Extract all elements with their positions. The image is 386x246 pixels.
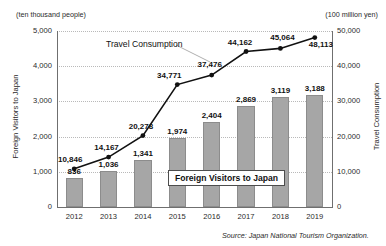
line-value-label: 44,162: [223, 38, 257, 47]
chart-container: (ten thousand people) (100 million yen) …: [0, 0, 386, 246]
line-value-label: 10,846: [53, 155, 87, 164]
bar: [272, 97, 289, 207]
bar-value-label: 1,036: [91, 160, 125, 169]
right-axis-tick-label: 50,000: [337, 26, 377, 35]
bar: [66, 178, 83, 207]
gridline: [57, 137, 332, 138]
line-marker: [244, 49, 249, 54]
line-marker: [175, 82, 180, 87]
left-axis-title: Foreign Visitors to Japan: [11, 57, 20, 177]
bar-value-label: 836: [57, 167, 91, 176]
bar: [100, 171, 117, 207]
right-axis-tick-label: 30,000: [337, 96, 377, 105]
bar-value-label: 1,974: [160, 127, 194, 136]
right-axis-title: Travel Consumption: [372, 57, 381, 177]
bar-value-label: 1,341: [126, 149, 160, 158]
bar: [203, 122, 220, 207]
line-value-label: 14,167: [89, 143, 123, 152]
line-value-label: 34,771: [152, 71, 186, 80]
x-axis-tick-label: 2012: [57, 212, 91, 221]
x-axis-tick-label: 2017: [229, 212, 263, 221]
x-axis-tick-label: 2015: [160, 212, 194, 221]
line-value-label: 45,064: [265, 33, 299, 42]
bar: [237, 106, 254, 207]
right-axis-tick-label: 20,000: [337, 132, 377, 141]
right-axis-tick-label: 40,000: [337, 61, 377, 70]
x-axis-tick-label: 2018: [263, 212, 297, 221]
line-marker: [278, 46, 283, 51]
left-axis-tick-label: 0: [18, 202, 52, 211]
legend-bar-series: Foreign Visitors to Japan: [168, 170, 285, 186]
bar-value-label: 2,404: [195, 111, 229, 120]
bar-value-label: 2,869: [229, 95, 263, 104]
left-axis-tick-label: 2,000: [18, 132, 52, 141]
line-series-annotation: Travel Consumption: [106, 39, 183, 49]
right-axis-line: [332, 31, 333, 208]
right-axis-tick-label: 10,000: [337, 167, 377, 176]
x-axis-tick-label: 2013: [91, 212, 125, 221]
line-value-label: 48,113: [304, 40, 338, 49]
x-axis-tick-label: 2014: [126, 212, 160, 221]
left-axis-tick-label: 3,000: [18, 96, 52, 105]
x-axis-line: [57, 207, 333, 208]
gridline: [57, 101, 332, 102]
bar-value-label: 3,119: [263, 86, 297, 95]
left-axis-tick-label: 5,000: [18, 26, 52, 35]
right-axis-unit-label: (100 million yen): [325, 10, 378, 19]
left-axis-unit-label: (ten thousand people): [16, 10, 86, 19]
bar: [134, 160, 151, 207]
source-note: Source: Japan National Tourism Organizat…: [222, 231, 369, 240]
x-axis-tick-label: 2016: [195, 212, 229, 221]
left-axis-tick-label: 1,000: [18, 167, 52, 176]
left-axis-tick-label: 4,000: [18, 61, 52, 70]
line-value-label: 20,278: [124, 122, 158, 131]
line-value-label: 37,476: [193, 60, 227, 69]
x-axis-tick-label: 2019: [298, 212, 332, 221]
bar: [306, 95, 323, 207]
line-marker: [209, 73, 214, 78]
gridline: [57, 31, 332, 32]
left-axis-line: [57, 31, 58, 208]
right-axis-tick-label: 0: [337, 202, 377, 211]
bar-value-label: 3,188: [298, 84, 332, 93]
